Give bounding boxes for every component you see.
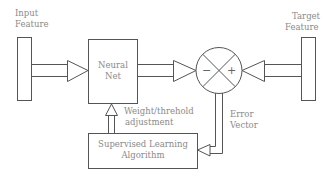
minus-sign: − (202, 64, 211, 77)
neural-net-label: Neural Net (88, 60, 138, 82)
target-arrow (242, 61, 302, 82)
input-arrow (32, 61, 89, 82)
adjustment-arrow (106, 104, 118, 133)
input-feature-label: Input Feature (15, 8, 49, 30)
adjustment-label-line2: adjustment (124, 117, 194, 128)
algorithm-label: Supervised Learning Algorithm (88, 139, 198, 161)
neural-net-line1: Neural (88, 60, 138, 71)
adjustment-label-line1: Weight/threhold (124, 106, 194, 117)
adjustment-label: Weight/threhold adjustment (124, 106, 194, 128)
neural-net-line2: Net (88, 71, 138, 82)
input-feature-bar (18, 38, 32, 101)
target-feature-bar (302, 38, 316, 101)
error-label-line2: Vector (230, 120, 258, 131)
error-vector-label: Error Vector (230, 109, 258, 131)
output-arrow (138, 61, 197, 82)
plus-sign: + (227, 64, 236, 77)
error-label-line1: Error (230, 109, 258, 120)
target-feature-label: Target Feature (285, 11, 320, 33)
input-label-line2: Feature (15, 19, 49, 30)
target-label-line1: Target (285, 11, 320, 22)
algorithm-label-line1: Supervised Learning (88, 139, 198, 150)
target-label-line2: Feature (285, 22, 320, 33)
algorithm-label-line2: Algorithm (88, 150, 198, 161)
input-label-line1: Input (15, 8, 49, 19)
error-vector-arrow (198, 93, 223, 156)
